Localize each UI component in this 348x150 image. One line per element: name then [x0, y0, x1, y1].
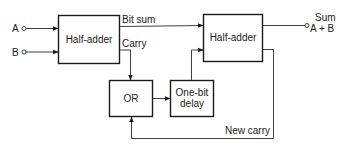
input-a-label: A — [12, 23, 19, 34]
half-adder-2: Half-adder — [204, 15, 263, 62]
or-gate-label: OR — [124, 93, 139, 104]
half-adder-1: Half-adder — [59, 16, 120, 64]
one-bit-delay-label-line2: delay — [180, 98, 204, 109]
half-adder-1-label: Half-adder — [66, 34, 113, 45]
serial-adder-diagram: A B Half-adder Bit sum Carry OR One-bit … — [0, 0, 348, 150]
sum-expression-label: A + B — [310, 23, 335, 34]
sum-output-terminal — [305, 24, 309, 28]
new-carry-label: New carry — [225, 125, 270, 136]
delay-to-half-adder-2-wire — [192, 50, 204, 80]
carry-label: Carry — [122, 38, 146, 49]
or-gate: OR — [110, 81, 153, 117]
input-b: B — [12, 47, 58, 58]
input-b-terminal — [22, 50, 26, 54]
half-adder-2-label: Half-adder — [210, 32, 257, 43]
sum-label: Sum — [315, 12, 336, 23]
bit-sum-label: Bit sum — [122, 14, 155, 25]
carry-wire — [120, 50, 131, 80]
input-a-terminal — [22, 27, 26, 31]
input-a: A — [12, 23, 58, 34]
input-b-label: B — [12, 47, 19, 58]
bit-sum-wire — [120, 26, 203, 27]
one-bit-delay-label-line1: One-bit — [176, 87, 209, 98]
one-bit-delay: One-bit delay — [171, 81, 214, 117]
